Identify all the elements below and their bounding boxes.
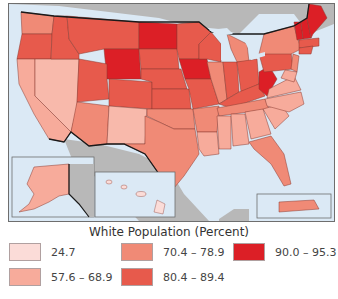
legend-title: White Population (Percent)	[0, 225, 338, 239]
legend-swatch	[121, 243, 153, 261]
state-new-jersey	[291, 54, 299, 72]
state-utah	[77, 59, 109, 102]
hawaii-oahu	[121, 185, 127, 189]
state-wyoming	[104, 49, 141, 79]
hawaii-maui	[136, 192, 146, 197]
legend-item-57-6-68-9: 57.6 – 68.9	[9, 268, 112, 286]
legend-label: 70.4 – 78.9	[163, 246, 224, 259]
state-louisiana	[197, 132, 219, 156]
state-mississippi	[217, 116, 231, 149]
legend-swatch	[9, 268, 41, 286]
legend-item-70-4-78-9: 70.4 – 78.9	[121, 243, 224, 261]
legend-item-90-0-95-3: 90.0 – 95.3	[233, 243, 336, 261]
legend-label: 90.0 – 95.3	[275, 246, 336, 259]
state-michigan	[227, 34, 249, 62]
legend-swatch	[233, 243, 265, 261]
legend-label: 57.6 – 68.9	[51, 271, 112, 284]
hawaii-kauai	[106, 180, 112, 184]
state-arkansas	[193, 106, 219, 132]
lake-michigan	[221, 40, 225, 60]
state-oregon	[17, 34, 52, 59]
state-kansas	[152, 89, 191, 109]
us-map	[9, 4, 334, 221]
state-north-dakota	[139, 22, 177, 49]
state-new-mexico	[107, 106, 147, 144]
state-colorado	[109, 79, 152, 109]
state-south-dakota	[139, 49, 179, 69]
cuba-land	[219, 209, 249, 221]
state-iowa	[179, 59, 211, 79]
legend-item-80-4-89-4: 80.4 – 89.4	[121, 268, 224, 286]
legend-label: 80.4 – 89.4	[163, 271, 224, 284]
legend-swatch	[121, 268, 153, 286]
state-arizona	[71, 102, 109, 146]
map-frame	[8, 3, 335, 222]
state-florida	[249, 136, 291, 186]
legend-label: 24.7	[51, 246, 76, 259]
legend-swatch	[9, 243, 41, 261]
state-maryland	[281, 70, 297, 82]
legend-item-24-7: 24.7	[9, 243, 76, 261]
